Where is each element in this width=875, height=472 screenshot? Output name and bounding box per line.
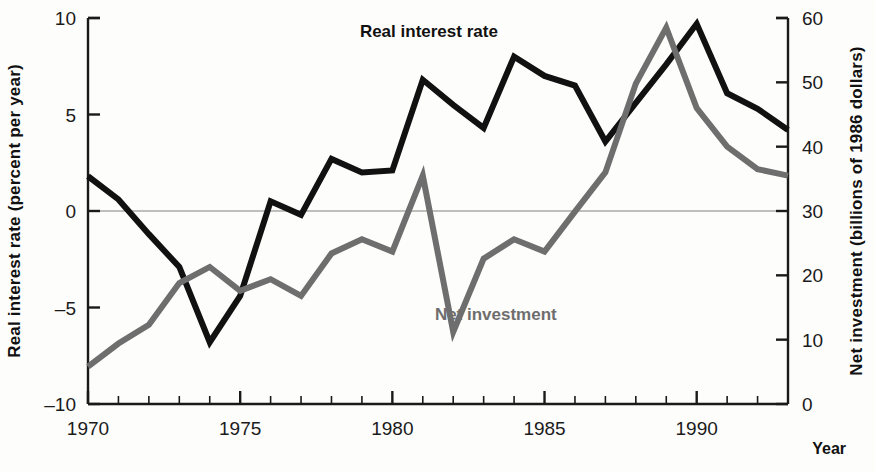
right-tick-label-10: 10 bbox=[802, 330, 823, 351]
chart-figure: –10–505100102030405060197019751980198519… bbox=[0, 0, 875, 472]
series-label-net-investment: Net investment bbox=[435, 305, 557, 324]
x-tick-label-1970: 1970 bbox=[67, 418, 109, 439]
right-tick-label-30: 30 bbox=[802, 201, 823, 222]
left-tick-label-5: 5 bbox=[65, 105, 76, 126]
x-tick-label-1980: 1980 bbox=[371, 418, 413, 439]
left-tick-label-0: 0 bbox=[65, 201, 76, 222]
right-axis-title: Net investment (billions of 1986 dollars… bbox=[847, 46, 866, 375]
right-tick-label-40: 40 bbox=[802, 137, 823, 158]
line-chart-canvas: –10–505100102030405060197019751980198519… bbox=[0, 0, 875, 472]
series-label-real-interest-rate: Real interest rate bbox=[360, 22, 498, 41]
left-tick-label-10: 10 bbox=[55, 8, 76, 29]
x-tick-label-1990: 1990 bbox=[676, 418, 718, 439]
left-axis-title: Real interest rate (percent per year) bbox=[5, 64, 24, 358]
x-tick-label-1975: 1975 bbox=[219, 418, 261, 439]
right-tick-label-60: 60 bbox=[802, 8, 823, 29]
right-tick-label-20: 20 bbox=[802, 265, 823, 286]
x-tick-label-1985: 1985 bbox=[523, 418, 565, 439]
left-tick-label--10: –10 bbox=[44, 394, 76, 415]
right-tick-label-0: 0 bbox=[802, 394, 813, 415]
x-axis-title: Year bbox=[812, 440, 846, 457]
left-tick-label--5: –5 bbox=[55, 298, 76, 319]
right-tick-label-50: 50 bbox=[802, 72, 823, 93]
